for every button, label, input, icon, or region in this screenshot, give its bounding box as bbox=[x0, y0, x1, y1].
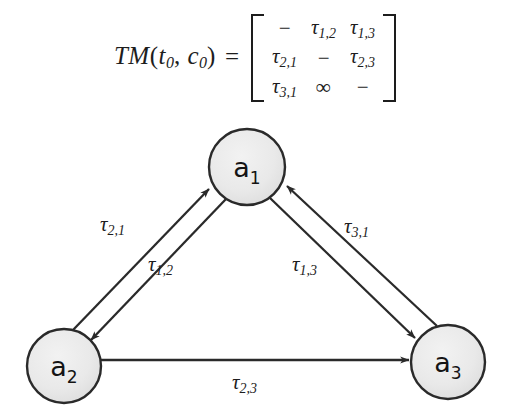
edge-label-tau-2-3: τ2,3 bbox=[232, 370, 257, 397]
edge-a2-to-a1 bbox=[73, 189, 209, 330]
tau-subscript: 1,2 bbox=[319, 26, 337, 41]
tau-symbol: τ bbox=[350, 44, 358, 68]
tau-symbol: τ bbox=[232, 370, 240, 394]
tau-subscript: 2,1 bbox=[108, 223, 126, 238]
edge-lines bbox=[73, 186, 437, 360]
figure-root: TM(t0, c0) = − τ1,2 τ1,3 τ2,1 − τ2,3 bbox=[0, 0, 510, 408]
matrix-cell-2-3: τ2,3 bbox=[343, 43, 382, 73]
tau-symbol: τ bbox=[272, 74, 280, 98]
tau-symbol: τ bbox=[344, 214, 352, 238]
matrix-cell-1-2: τ1,2 bbox=[304, 14, 343, 44]
tau-subscript: 3,1 bbox=[352, 225, 370, 240]
node-a2[interactable]: a2 bbox=[27, 329, 101, 403]
directed-graph: a1 a2 a3 τ2,1 τ1,2 τ1,3 τ3,1 τ2,3 bbox=[0, 112, 510, 408]
matrix-cell-2-1: τ2,1 bbox=[265, 43, 304, 73]
graph-canvas: a1 a2 a3 bbox=[0, 112, 510, 408]
edge-label-tau-3-1: τ3,1 bbox=[344, 214, 369, 241]
matrix-row: − τ1,2 τ1,3 bbox=[265, 14, 382, 44]
lhs-arg-c-subscript: 0 bbox=[199, 54, 207, 71]
lhs-arg-c: c bbox=[187, 42, 199, 69]
matrix-bracket-right bbox=[383, 14, 396, 103]
tau-subscript: 1,2 bbox=[156, 263, 174, 278]
node-a1-subscript: 1 bbox=[250, 168, 261, 188]
tau-subscript: 1,3 bbox=[300, 263, 318, 278]
tau-subscript: 1,3 bbox=[358, 26, 376, 41]
matrix-cell-1-3: τ1,3 bbox=[343, 14, 382, 44]
tau-symbol: τ bbox=[311, 15, 319, 39]
node-a3-base: a bbox=[434, 347, 451, 378]
matrix: − τ1,2 τ1,3 τ2,1 − τ2,3 τ3,1 ∞ − bbox=[251, 14, 396, 103]
matrix-cell-3-3: − bbox=[343, 73, 382, 103]
graph-nodes: a1 a2 a3 bbox=[27, 129, 485, 403]
matrix-row: τ3,1 ∞ − bbox=[265, 73, 382, 103]
tau-symbol: τ bbox=[350, 15, 358, 39]
tau-subscript: 2,3 bbox=[240, 381, 258, 396]
node-a1-base: a bbox=[233, 152, 250, 183]
matrix-cell-1-1: − bbox=[265, 14, 304, 44]
edge-label-tau-1-2: τ1,2 bbox=[148, 252, 173, 279]
edge-label-tau-2-1: τ2,1 bbox=[100, 212, 125, 239]
tau-symbol: τ bbox=[292, 252, 300, 276]
node-a2-subscript: 2 bbox=[67, 367, 78, 387]
node-a3-subscript: 3 bbox=[451, 363, 462, 383]
matrix-cell-3-1: τ3,1 bbox=[265, 73, 304, 103]
matrix-equation: TM(t0, c0) = − τ1,2 τ1,3 τ2,1 − τ2,3 bbox=[0, 4, 510, 112]
equation-left-hand-side: TM(t0, c0) bbox=[114, 42, 225, 72]
equals-sign: = bbox=[225, 43, 251, 71]
tau-subscript: 2,1 bbox=[280, 55, 298, 70]
matrix-grid: − τ1,2 τ1,3 τ2,1 − τ2,3 τ3,1 ∞ − bbox=[265, 14, 382, 103]
lhs-arg-t: t bbox=[158, 42, 165, 69]
node-a1[interactable]: a1 bbox=[209, 129, 285, 205]
matrix-cell-2-2: − bbox=[304, 43, 343, 73]
tau-symbol: τ bbox=[100, 212, 108, 236]
tau-symbol: τ bbox=[272, 44, 280, 68]
node-a3[interactable]: a3 bbox=[411, 325, 485, 399]
matrix-cell-3-2: ∞ bbox=[304, 73, 343, 103]
tau-symbol: τ bbox=[148, 252, 156, 276]
lhs-arg-t-subscript: 0 bbox=[166, 54, 174, 71]
node-a2-base: a bbox=[50, 351, 67, 382]
edge-label-tau-1-3: τ1,3 bbox=[292, 252, 317, 279]
tau-subscript: 3,1 bbox=[280, 85, 298, 100]
lhs-symbol: TM bbox=[114, 42, 150, 69]
tau-subscript: 2,3 bbox=[358, 55, 376, 70]
matrix-bracket-left bbox=[251, 14, 264, 103]
matrix-row: τ2,1 − τ2,3 bbox=[265, 43, 382, 73]
